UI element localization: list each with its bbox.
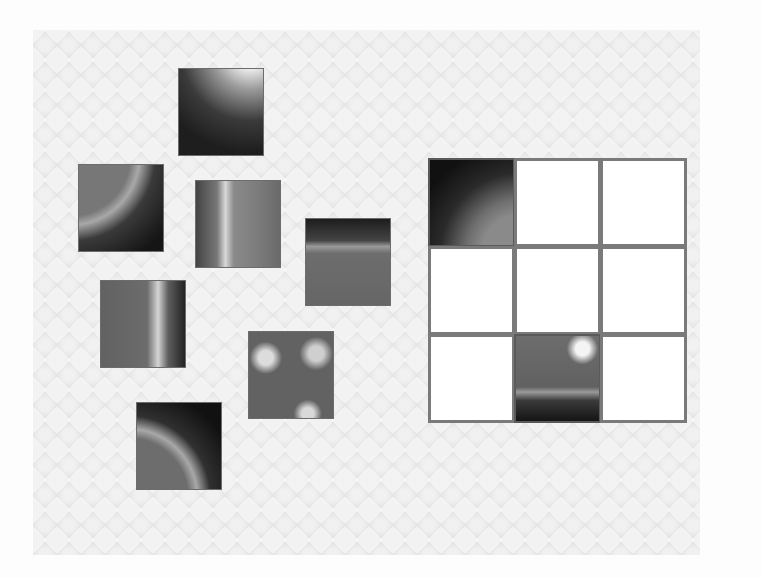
grid-cell[interactable] — [428, 158, 515, 247]
puzzle-piece[interactable] — [78, 164, 164, 252]
placed-piece[interactable] — [430, 160, 513, 245]
puzzle-piece[interactable] — [178, 68, 264, 156]
grid-cell[interactable] — [600, 334, 687, 423]
grid-cell[interactable] — [428, 246, 515, 335]
grid-cell[interactable] — [600, 246, 687, 335]
puzzle-piece[interactable] — [305, 218, 391, 306]
puzzle-piece[interactable] — [136, 402, 222, 490]
puzzle-piece[interactable] — [100, 280, 186, 368]
drop-grid — [428, 158, 686, 422]
puzzle-piece[interactable] — [195, 180, 281, 268]
grid-cell[interactable] — [514, 158, 601, 247]
grid-cell[interactable] — [600, 158, 687, 247]
grid-cell[interactable] — [428, 334, 515, 423]
grid-cell[interactable] — [514, 334, 601, 423]
puzzle-piece[interactable] — [248, 331, 334, 419]
placed-piece[interactable] — [516, 336, 599, 421]
grid-cell[interactable] — [514, 246, 601, 335]
